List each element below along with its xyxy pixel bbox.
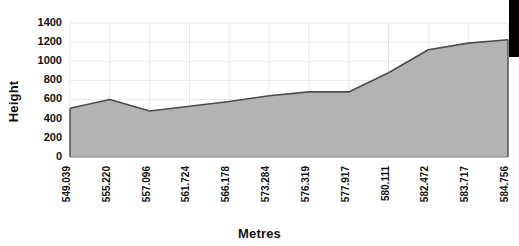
x-tick-label: 561.724 (180, 166, 191, 203)
y-tick-label: 600 (44, 92, 62, 104)
x-tick-label: 573.284 (260, 166, 271, 203)
x-axis-tick-labels: 549.039555.220557.096561.724566.178573.2… (61, 166, 510, 203)
plot-area: 0200400600800100012001400 549.039555.220… (0, 0, 519, 246)
y-tick-label: 1200 (38, 35, 62, 47)
x-tick-label: 584.756 (499, 166, 510, 203)
x-tick-label: 583.717 (459, 166, 470, 203)
x-tick-label: 576.319 (300, 166, 311, 203)
x-tick-label: 582.472 (419, 166, 430, 203)
x-tick-label: 577.917 (340, 166, 351, 203)
area-fill (70, 40, 508, 157)
y-tick-label: 800 (44, 73, 62, 85)
area-chart: Height Metres 0200400600800100012001400 … (0, 0, 519, 246)
x-tick-label: 557.096 (141, 166, 152, 203)
y-tick-label: 200 (44, 131, 62, 143)
x-tick-label: 580.111 (380, 166, 391, 201)
y-tick-label: 1000 (38, 54, 62, 66)
x-tick-label: 555.220 (101, 166, 112, 203)
y-tick-label: 400 (44, 112, 62, 124)
y-tick-label: 1400 (38, 16, 62, 28)
x-tick-label: 549.039 (61, 166, 72, 203)
height-area-series (70, 40, 508, 157)
x-tick-label: 566.178 (220, 166, 231, 203)
edge-artifact (509, 0, 519, 57)
y-tick-label: 0 (56, 150, 62, 162)
y-axis-tick-labels: 0200400600800100012001400 (38, 16, 62, 162)
